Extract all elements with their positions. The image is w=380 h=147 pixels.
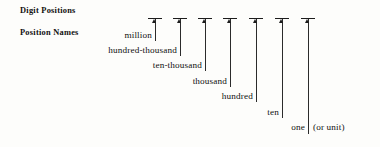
place-name-ten-thousand: ten-thousand — [153, 60, 202, 70]
arrow-up-icon — [279, 19, 283, 23]
leader-line — [180, 19, 181, 56]
arrow-up-icon — [152, 19, 156, 23]
arrow-up-icon — [202, 19, 206, 23]
arrow-up-icon — [253, 19, 257, 23]
arrow-up-icon — [305, 19, 309, 23]
place-name-hundred: hundred — [222, 91, 253, 101]
place-name-thousand: thousand — [193, 76, 227, 86]
row-label-position-names: Position Names — [20, 28, 79, 37]
arrow-up-icon — [177, 19, 181, 23]
leader-line — [205, 19, 206, 71]
leader-line — [282, 19, 283, 118]
leader-line — [230, 19, 231, 87]
unit-note: (or unit) — [313, 122, 345, 132]
leader-line — [256, 19, 257, 102]
place-name-million: million — [124, 30, 152, 40]
leader-line — [308, 19, 309, 134]
place-name-ten: ten — [267, 107, 279, 117]
place-name-hundred-thousand: hundred-thousand — [108, 45, 177, 55]
arrow-up-icon — [227, 19, 231, 23]
place-name-one: one — [291, 122, 305, 132]
row-label-digit-positions: Digit Positions — [20, 6, 76, 15]
place-value-diagram: Digit Positions Position Names millionhu… — [0, 0, 380, 147]
